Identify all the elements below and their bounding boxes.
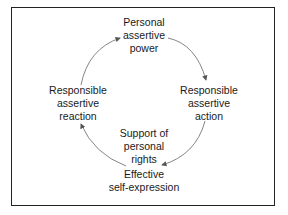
node-responsible-assertive-action: Responsible assertive action bbox=[177, 84, 241, 123]
node-responsible-assertive-reaction: Responsible assertive reaction bbox=[46, 84, 110, 123]
node-personal-assertive-power: Personal assertive power bbox=[114, 16, 174, 55]
node-effective-self-expression: Effective self-expression bbox=[104, 168, 184, 194]
center-support-of-personal-rights: Support of personal rights bbox=[114, 127, 174, 166]
